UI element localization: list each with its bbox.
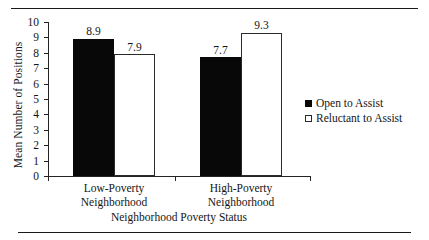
x-axis-title: Neighborhood Poverty Status <box>48 211 310 223</box>
chart-legend: Open to AssistReluctant to Assist <box>305 96 402 126</box>
category-label-line: Neighborhood <box>208 196 274 210</box>
y-tick: 9 <box>44 37 48 38</box>
y-tick-label: 9 <box>33 33 39 45</box>
y-tick: 8 <box>44 53 48 54</box>
top-divider-rule <box>11 8 418 9</box>
legend-item: Open to Assist <box>305 96 402 111</box>
y-tick: 2 <box>44 145 48 146</box>
x-tick <box>48 176 49 181</box>
bar-chart-figure: Mean Number of Positions 012345678910 8.… <box>0 0 429 240</box>
bar-value-label: 9.3 <box>254 20 268 32</box>
category-label-line: High-Poverty <box>208 182 274 196</box>
bar: 7.9 <box>114 54 155 176</box>
bar-value-label: 7.9 <box>127 42 141 54</box>
y-tick-label: 0 <box>33 171 39 183</box>
y-tick-label: 3 <box>33 125 39 137</box>
y-tick: 7 <box>44 68 48 69</box>
category-label: High-PovertyNeighborhood <box>208 182 274 209</box>
legend-swatch-icon <box>305 115 312 122</box>
y-tick-label: 7 <box>33 63 39 75</box>
legend-swatch-icon <box>305 100 312 107</box>
x-tick <box>175 176 176 181</box>
x-tick <box>310 176 311 181</box>
bar-value-label: 7.7 <box>213 45 227 57</box>
y-tick-label: 2 <box>33 140 39 152</box>
y-tick: 3 <box>44 130 48 131</box>
y-tick: 4 <box>44 114 48 115</box>
y-tick-label: 4 <box>33 110 39 122</box>
y-tick-label: 10 <box>28 17 40 29</box>
legend-label: Reluctant to Assist <box>316 113 402 125</box>
y-tick-label: 8 <box>33 48 39 60</box>
bar-value-label: 8.9 <box>86 26 100 38</box>
y-tick-label: 5 <box>33 94 39 106</box>
category-label-line: Neighborhood <box>81 196 147 210</box>
legend-label: Open to Assist <box>316 98 383 110</box>
category-label: Low-PovertyNeighborhood <box>81 182 147 209</box>
bottom-divider-rule <box>18 232 411 233</box>
y-axis-title: Mean Number of Positions <box>12 25 24 185</box>
x-axis-line <box>48 176 310 177</box>
bar: 8.9 <box>73 39 114 176</box>
y-tick-label: 1 <box>33 156 39 168</box>
y-tick: 5 <box>44 99 48 100</box>
y-axis-line <box>48 22 49 176</box>
plot-area: 012345678910 8.97.97.79.3 Low-PovertyNei… <box>48 22 310 176</box>
y-tick: 10 <box>44 22 48 23</box>
y-tick-label: 6 <box>33 79 39 91</box>
bar: 9.3 <box>241 33 282 176</box>
y-tick: 6 <box>44 84 48 85</box>
category-label-line: Low-Poverty <box>81 182 147 196</box>
y-tick: 1 <box>44 161 48 162</box>
bar: 7.7 <box>200 57 241 176</box>
legend-item: Reluctant to Assist <box>305 111 402 126</box>
